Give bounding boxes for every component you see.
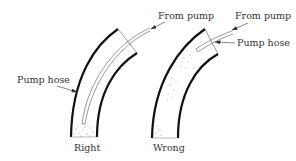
from-pump-label-left: From pump bbox=[158, 10, 214, 21]
pump-hose-leader bbox=[57, 86, 77, 92]
caption-wrong: Wrong bbox=[153, 142, 185, 153]
from-pump-label-right: From pump bbox=[235, 10, 291, 21]
pump-hose-label: Pump hose bbox=[17, 74, 70, 85]
pump-hose-leader bbox=[215, 42, 235, 43]
from-pump-arrow-left bbox=[151, 22, 165, 29]
caption-right: Right bbox=[74, 142, 100, 153]
panel-wrong: Pump hose From pump Wrong bbox=[152, 10, 291, 153]
pump-hose-inner bbox=[85, 31, 150, 124]
pipe-inner-wall bbox=[97, 53, 137, 137]
pipe-cut-end bbox=[118, 29, 137, 53]
pump-hose bbox=[82, 28, 150, 124]
pump-hose-diagram: Pump hose Right From pump Pump hose From bbox=[0, 0, 296, 161]
from-pump-arrow-right bbox=[232, 23, 248, 30]
sediment bbox=[74, 126, 94, 137]
pump-hose-label: Pump hose bbox=[237, 37, 290, 48]
pipe-inner-wall bbox=[178, 54, 218, 138]
panel-right: Pump hose Right bbox=[17, 28, 150, 153]
